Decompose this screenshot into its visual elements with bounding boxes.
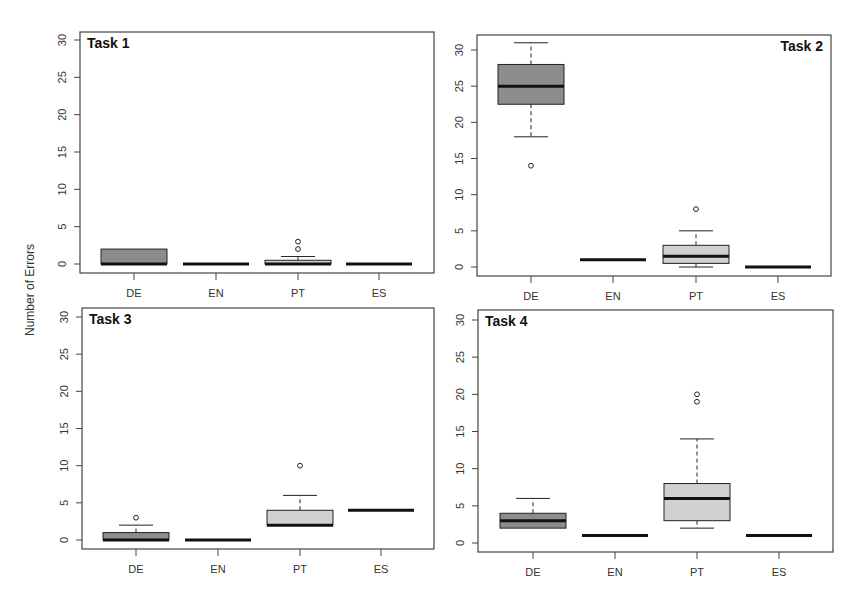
iqr-box — [101, 249, 167, 264]
y-axis-label: Number of Errors — [23, 244, 37, 336]
iqr-box — [664, 484, 730, 521]
boxplot-figure: 051015202530Task 1DEENPTES051015202530Ta… — [0, 0, 860, 609]
iqr-box — [267, 510, 333, 525]
panel-title: Task 1 — [87, 35, 130, 51]
plot-frame — [80, 32, 434, 273]
y-tick-label: 15 — [453, 152, 465, 164]
y-tick-label: 20 — [56, 109, 68, 121]
y-tick-label: 5 — [58, 500, 70, 506]
x-tick-label: PT — [293, 563, 307, 575]
x-tick-label: DE — [128, 563, 143, 575]
x-tick-label: ES — [771, 290, 786, 302]
y-tick-label: 15 — [58, 422, 70, 434]
outlier-point — [529, 163, 534, 168]
y-tick-label: 25 — [58, 348, 70, 360]
x-tick-label: DE — [525, 566, 540, 578]
box-de — [498, 43, 564, 168]
box-de — [103, 515, 169, 540]
y-tick-label: 20 — [58, 385, 70, 397]
panel-title: Task 3 — [89, 311, 132, 327]
box-pt — [267, 463, 333, 525]
y-tick-label: 30 — [454, 314, 466, 326]
y-tick-label: 30 — [453, 44, 465, 56]
outlier-point — [694, 207, 699, 212]
box-pt — [663, 207, 729, 267]
x-tick-label: ES — [372, 287, 387, 299]
y-tick-label: 15 — [454, 425, 466, 437]
y-tick-label: 30 — [56, 34, 68, 46]
panel-task-3: 051015202530Task 3DEENPTES — [58, 308, 434, 575]
boxplot-panels: 051015202530Task 1DEENPTES051015202530Ta… — [0, 0, 860, 609]
outlier-point — [296, 247, 301, 252]
x-tick-label: PT — [689, 290, 703, 302]
y-tick-label: 30 — [58, 311, 70, 323]
iqr-box — [663, 245, 729, 263]
plot-frame — [82, 308, 434, 549]
outlier-point — [695, 399, 700, 404]
x-tick-label: EN — [607, 566, 622, 578]
panel-task-2: 051015202530Task 2DEENPTES — [453, 35, 831, 302]
y-tick-label: 10 — [453, 189, 465, 201]
x-tick-label: EN — [605, 290, 620, 302]
panel-task-1: 051015202530Task 1DEENPTES — [56, 32, 434, 299]
y-tick-label: 0 — [58, 537, 70, 543]
y-tick-label: 20 — [454, 388, 466, 400]
y-tick-label: 20 — [453, 116, 465, 128]
panel-title: Task 4 — [485, 313, 528, 329]
box-pt — [265, 239, 331, 264]
y-tick-label: 10 — [58, 460, 70, 472]
y-tick-label: 10 — [454, 463, 466, 475]
y-tick-label: 5 — [56, 224, 68, 230]
box-de — [101, 249, 167, 264]
panel-title: Task 2 — [780, 38, 823, 54]
x-tick-label: ES — [374, 563, 389, 575]
outlier-point — [134, 515, 139, 520]
y-tick-label: 10 — [56, 183, 68, 195]
y-tick-label: 25 — [454, 351, 466, 363]
y-tick-label: 0 — [453, 264, 465, 270]
x-tick-label: DE — [126, 287, 141, 299]
iqr-box — [498, 64, 564, 104]
x-tick-label: PT — [690, 566, 704, 578]
x-tick-label: EN — [208, 287, 223, 299]
box-de — [500, 498, 566, 528]
x-tick-label: ES — [772, 566, 787, 578]
y-tick-label: 5 — [453, 228, 465, 234]
outlier-point — [695, 392, 700, 397]
y-tick-label: 15 — [56, 146, 68, 158]
outlier-point — [298, 463, 303, 468]
x-tick-label: PT — [291, 287, 305, 299]
x-tick-label: EN — [210, 563, 225, 575]
y-tick-label: 5 — [454, 503, 466, 509]
y-tick-label: 25 — [453, 80, 465, 92]
outlier-point — [296, 239, 301, 244]
panel-task-4: 051015202530Task 4DEENPTES — [454, 310, 833, 578]
box-pt — [664, 392, 730, 528]
y-tick-label: 0 — [454, 540, 466, 546]
y-tick-label: 0 — [56, 261, 68, 267]
y-tick-label: 25 — [56, 71, 68, 83]
x-tick-label: DE — [523, 290, 538, 302]
